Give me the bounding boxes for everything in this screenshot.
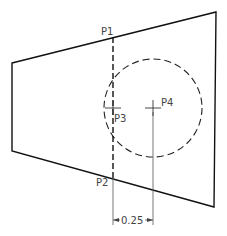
trapezoid-shape [12, 12, 216, 207]
arrow-right-icon [147, 218, 153, 222]
label-p1: P1 [101, 26, 113, 37]
label-p4: P4 [161, 97, 173, 108]
label-p3: P3 [114, 113, 126, 124]
crosshair-p4 [145, 100, 161, 116]
dimension-label: 0.25 [121, 215, 143, 226]
label-p2: P2 [96, 177, 108, 188]
technical-drawing: P1 P2 P3 P4 0.25 [0, 0, 227, 236]
arrow-left-icon [113, 218, 119, 222]
